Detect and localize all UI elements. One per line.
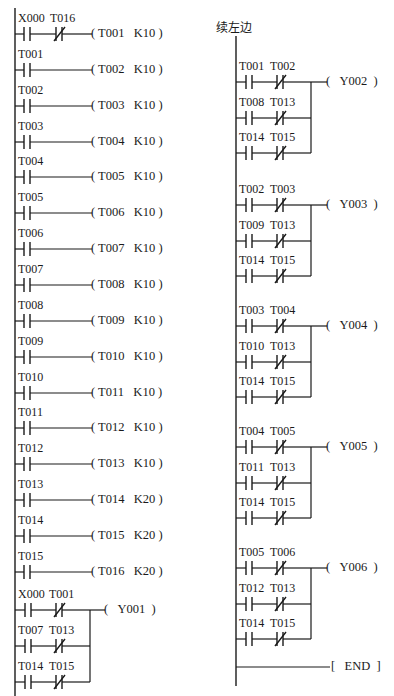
contact-label: T007: [18, 624, 43, 636]
contact-label: T014: [18, 660, 43, 672]
timer-preset: K10: [134, 62, 156, 76]
contact-label: T005: [270, 425, 295, 437]
normally-open-contact-icon: [246, 234, 252, 248]
normally-open-contact-icon: [24, 565, 30, 579]
contact-label: T015: [18, 550, 43, 562]
timer-coil-name: T013: [98, 456, 124, 470]
timer-coil: ( T006 K10 ): [91, 206, 163, 219]
timer-preset: K10: [134, 134, 156, 148]
contact-label: T004: [18, 155, 43, 167]
contact-label: T007: [18, 263, 43, 275]
contact-label: T015: [270, 496, 295, 508]
timer-coil: ( T005 K10 ): [91, 170, 163, 183]
normally-open-contact-icon: [25, 675, 31, 689]
normally-open-contact-icon: [24, 99, 30, 113]
contact-label: T002: [239, 183, 264, 195]
normally-open-contact-icon: [25, 603, 31, 617]
contact-label: T013: [49, 624, 74, 636]
normally-open-contact-icon: [24, 63, 30, 77]
timer-coil-name: T012: [98, 420, 124, 434]
contact-label: T001: [18, 48, 43, 60]
contact-label: T016: [50, 12, 75, 24]
normally-open-contact-icon: [24, 457, 30, 471]
contact-label: T006: [18, 227, 43, 239]
contact-label: T012: [239, 582, 264, 594]
normally-open-contact-icon: [24, 386, 30, 400]
timer-coil: ( T002 K10 ): [91, 63, 163, 76]
contact-label: T015: [49, 660, 74, 672]
continuation-label: 续左边: [216, 22, 252, 35]
normally-open-contact-icon: [246, 198, 252, 212]
timer-coil: ( T003 K10 ): [91, 99, 163, 112]
timer-coil: ( T004 K10 ): [91, 135, 163, 148]
timer-coil-name: T010: [98, 349, 124, 363]
contact-label: T013: [18, 478, 43, 490]
contact-label: T004: [239, 425, 264, 437]
timer-coil-name: T003: [98, 98, 124, 112]
output-coil-name: Y005: [340, 439, 368, 453]
timer-coil-name: T014: [98, 492, 124, 506]
normally-open-contact-icon: [24, 170, 30, 184]
contact-label: T005: [239, 546, 264, 558]
timer-coil: ( T007 K10 ): [91, 242, 163, 255]
end-label: END: [345, 659, 371, 673]
output-coil-name: Y003: [340, 197, 368, 211]
timer-preset: K10: [134, 26, 156, 40]
timer-preset: K20: [134, 564, 156, 578]
normally-open-contact-icon: [246, 355, 252, 369]
normally-open-contact-icon: [24, 529, 30, 543]
contact-label: T015: [270, 617, 295, 629]
output-coil-name: Y002: [340, 74, 368, 88]
contact-label: T013: [270, 340, 295, 352]
timer-preset: K10: [134, 313, 156, 327]
timer-preset: K10: [134, 277, 156, 291]
normally-open-contact-icon: [24, 135, 30, 149]
contact-label: T008: [239, 96, 264, 108]
timer-coil-name: T007: [98, 241, 124, 255]
output-coil: ( Y005 ): [326, 440, 378, 453]
timer-coil: ( T011 K10 ): [91, 386, 162, 399]
output-coil: ( Y006 ): [326, 561, 378, 574]
output-coil: ( Y004 ): [326, 319, 378, 332]
contact-label: T002: [270, 60, 295, 72]
contact-label: X000: [18, 12, 45, 24]
contact-label: T004: [270, 304, 295, 316]
timer-coil-name: T015: [98, 528, 124, 542]
normally-open-contact-icon: [246, 440, 252, 454]
timer-coil: ( T012 K10 ): [91, 421, 163, 434]
timer-preset: K10: [134, 241, 156, 255]
timer-coil: ( T016 K20 ): [91, 565, 163, 578]
contact-label: T010: [18, 371, 43, 383]
normally-open-contact-icon: [24, 314, 30, 328]
timer-preset: K10: [133, 385, 155, 399]
contact-label: T014: [239, 617, 264, 629]
timer-preset: K10: [134, 98, 156, 112]
contact-label: T009: [239, 219, 264, 231]
ladder-diagram: X000T016( T001 K10 )T001( T002 K10 )T002…: [0, 0, 394, 696]
contact-label: T013: [270, 96, 295, 108]
normally-open-contact-icon: [246, 632, 252, 646]
contact-label: T011: [18, 406, 43, 418]
timer-coil: ( T001 K10 ): [91, 27, 163, 40]
contact-label: T013: [270, 219, 295, 231]
timer-coil-name: T004: [98, 134, 124, 148]
contact-label: T003: [239, 304, 264, 316]
contact-label: T013: [270, 582, 295, 594]
timer-coil: ( T009 K10 ): [91, 314, 163, 327]
timer-coil-name: T016: [98, 564, 124, 578]
timer-preset: K10: [134, 205, 156, 219]
timer-coil-name: T011: [98, 385, 124, 399]
contact-label: T006: [270, 546, 295, 558]
contact-label: T014: [239, 131, 264, 143]
normally-open-contact-icon: [246, 597, 252, 611]
timer-coil-name: T001: [98, 26, 124, 40]
normally-open-contact-icon: [24, 206, 30, 220]
normally-open-contact-icon: [24, 493, 30, 507]
contact-label: T013: [270, 461, 295, 473]
contact-label: T015: [270, 375, 295, 387]
timer-coil: ( T013 K10 ): [91, 457, 163, 470]
contact-label: T015: [270, 131, 295, 143]
normally-open-contact-icon: [24, 421, 30, 435]
normally-open-contact-icon: [24, 242, 30, 256]
timer-preset: K20: [134, 492, 156, 506]
